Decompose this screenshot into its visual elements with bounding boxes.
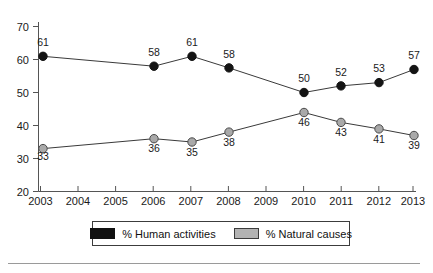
value-label-natural-2013: 39 (408, 139, 420, 151)
value-label-human-2006: 58 (148, 46, 160, 58)
value-label-human-2012: 53 (373, 62, 385, 74)
value-label-natural-2008: 38 (223, 136, 235, 148)
y-tick-label-20: 20 (17, 186, 29, 198)
y-tick-label-40: 40 (17, 120, 29, 132)
value-label-human-2007: 61 (186, 36, 198, 48)
data-point-human-2013[interactable] (410, 65, 418, 73)
data-point-human-2010[interactable] (300, 88, 308, 96)
legend-swatch-dark-icon (90, 228, 115, 239)
x-tick-label-2008: 2008 (216, 195, 240, 207)
x-tick-label-2007: 2007 (179, 195, 203, 207)
value-label-natural-2003: 33 (37, 150, 49, 162)
data-point-human-2008[interactable] (225, 64, 233, 72)
x-tick-label-2010: 2010 (291, 195, 315, 207)
value-label-natural-2007: 35 (186, 146, 198, 158)
x-tick-label-2003: 2003 (28, 195, 52, 207)
x-tick-label-2013: 2013 (401, 195, 425, 207)
value-label-human-2010: 50 (298, 72, 310, 84)
x-tick-label-2006: 2006 (141, 195, 165, 207)
data-point-human-2011[interactable] (337, 82, 345, 90)
data-point-human-2006[interactable] (150, 62, 158, 70)
x-tick-label-2005: 2005 (103, 195, 127, 207)
value-label-human-2013: 57 (408, 49, 420, 61)
legend-label-natural-causes: % Natural causes (266, 228, 352, 240)
bottom-divider (8, 263, 420, 264)
x-tick-label-2012: 2012 (367, 195, 391, 207)
value-label-natural-2006: 36 (148, 142, 160, 154)
value-label-natural-2011: 43 (335, 126, 347, 138)
data-point-human-2007[interactable] (188, 52, 196, 60)
legend-label-human-activities: % Human activities (122, 228, 216, 240)
series-line-human-activities (43, 56, 414, 92)
y-tick-label-60: 60 (17, 54, 29, 66)
value-label-human-2003: 61 (37, 36, 49, 48)
legend-swatch-gray-icon (234, 228, 259, 239)
value-label-natural-2010: 46 (298, 116, 310, 128)
data-point-human-2012[interactable] (375, 78, 383, 86)
y-tick-label-50: 50 (17, 87, 29, 99)
y-tick-label-70: 70 (17, 21, 29, 33)
data-point-human-2003[interactable] (39, 52, 47, 60)
legend-item-natural-causes[interactable]: % Natural causes (234, 228, 352, 240)
legend-item-human-activities[interactable]: % Human activities (90, 228, 216, 240)
value-label-human-2011: 52 (335, 66, 347, 78)
value-label-human-2008: 58 (223, 48, 235, 60)
chart-legend: % Human activities % Natural causes (92, 221, 350, 246)
x-tick-label-2011: 2011 (329, 195, 353, 207)
x-tick-label-2009: 2009 (254, 195, 278, 207)
value-label-natural-2012: 41 (373, 133, 385, 145)
x-tick-label-2004: 2004 (66, 195, 90, 207)
line-chart: 70 60 50 40 30 20 2003 2004 2005 2006 20… (0, 0, 433, 273)
y-tick-label-30: 30 (17, 153, 29, 165)
